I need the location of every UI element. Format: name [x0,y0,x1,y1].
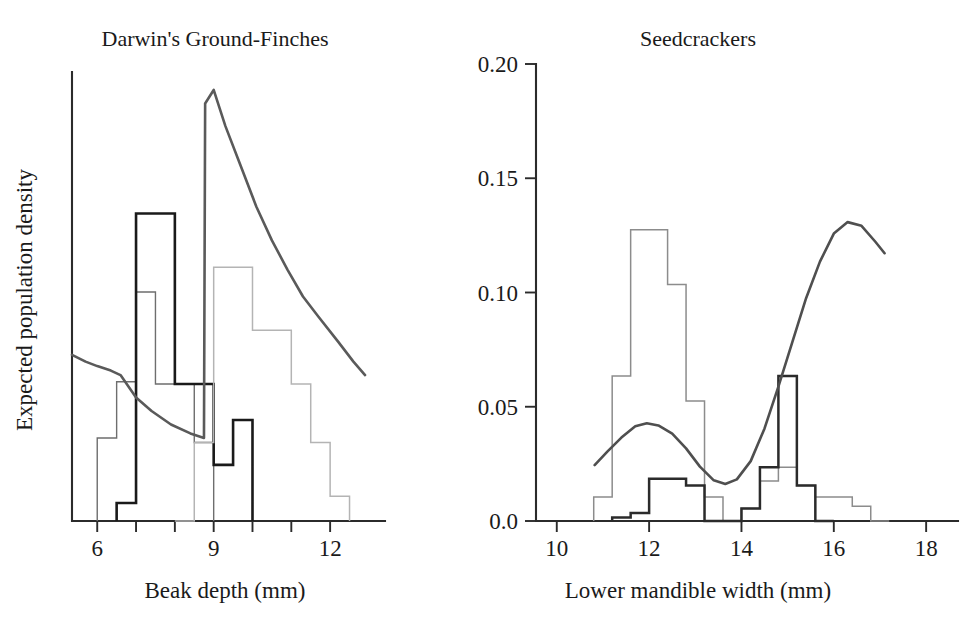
axis-lines [536,64,958,521]
histogram-fuliginosa [97,292,213,521]
panel-seedcrackers: Seedcrackers 10121416180.00.050.100.150.… [430,0,971,626]
panel-title-left: Darwin's Ground-Finches [102,26,329,51]
chart-darwins-ground-finches: Darwin's Ground-Finches 6912 Beak depth … [0,0,430,626]
plot-area-right: 10121416180.00.050.100.150.20 [478,52,958,561]
figure-root: Darwin's Ground-Finches 6912 Beak depth … [0,0,971,626]
y-axis-title-left: Expected population density [12,169,37,431]
y-tick-label: 0.05 [478,395,518,420]
y-tick-label: 0.0 [489,509,518,534]
y-tick-label: 0.10 [478,281,518,306]
x-tick-label: 12 [638,536,661,561]
x-tick-label: 9 [208,536,220,561]
histogram-magnirostris [175,267,350,521]
histogram-fortis [117,213,253,521]
y-tick-label: 0.20 [478,52,518,77]
panel-title-right: Seedcrackers [640,26,756,51]
x-tick-label: 12 [319,536,342,561]
y-tick-label: 0.15 [478,166,518,191]
x-axis-title-left: Beak depth (mm) [145,578,306,603]
x-axis-title-right: Lower mandible width (mm) [565,578,831,603]
panel-darwins-ground-finches: Darwin's Ground-Finches 6912 Beak depth … [0,0,430,626]
x-tick-label: 16 [822,536,845,561]
plot-area-left: 6912 [72,72,385,561]
axis-lines [72,72,385,521]
chart-seedcrackers: Seedcrackers 10121416180.00.050.100.150.… [430,0,971,626]
histogram-population-distribution-light [594,230,889,521]
curve-mean-survival-probability-curve [595,222,885,484]
x-tick-label: 10 [545,536,568,561]
x-tick-label: 18 [915,536,938,561]
x-tick-label: 14 [730,536,754,561]
x-tick-label: 6 [91,536,103,561]
